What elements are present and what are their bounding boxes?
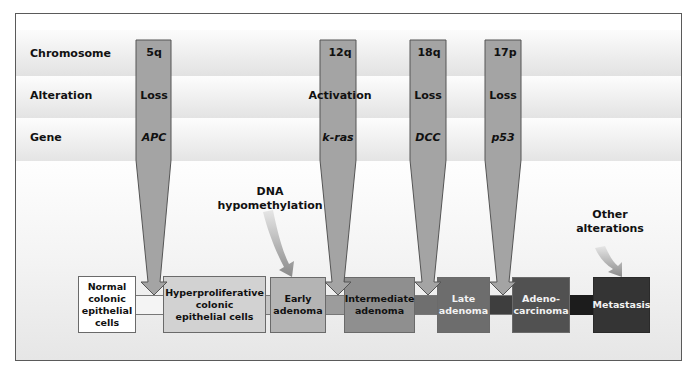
note-other-alterations: Otheralterations: [560, 208, 660, 236]
chromosome-12q: 12q: [310, 46, 370, 59]
note-dna-hypomethylation: DNAhypomethylation: [210, 185, 330, 213]
gene-p53: p53: [473, 131, 533, 144]
gene-apc: APC: [124, 131, 184, 144]
chromosome-arrow-12q: [320, 40, 356, 295]
other-alterations-arrow: [595, 246, 622, 277]
gene-dcc: DCC: [398, 131, 458, 144]
alteration-18q: Loss: [398, 89, 458, 102]
chromosome-18q: 18q: [399, 46, 459, 59]
chromosome-17p: 17p: [475, 46, 535, 59]
chromosome-arrow-5q: [136, 40, 171, 295]
dna-hypomethylation-arrow: [263, 210, 294, 277]
chromosome-arrow-18q: [410, 40, 446, 295]
chromosome-5q: 5q: [124, 46, 184, 59]
gene-kras: k-ras: [308, 131, 368, 144]
chromosome-arrow-17p: [485, 40, 521, 295]
alteration-12q: Activation: [300, 89, 380, 102]
alteration-17p: Loss: [473, 89, 533, 102]
alteration-5q: Loss: [124, 89, 184, 102]
